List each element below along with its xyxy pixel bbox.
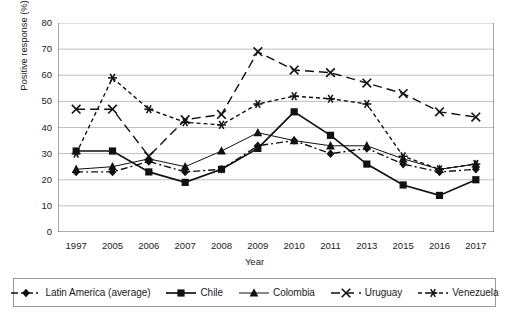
legend-label: Colombia bbox=[273, 287, 315, 298]
data-point-marker bbox=[290, 92, 299, 100]
y-tick-label: 60 bbox=[22, 71, 52, 81]
legend-label: Uruguay bbox=[365, 287, 402, 298]
y-axis-title: Positive response (%) bbox=[18, 0, 29, 111]
data-point-marker bbox=[109, 147, 116, 154]
series-line bbox=[76, 141, 476, 172]
legend-marker bbox=[250, 288, 259, 296]
x-tick-label: 2017 bbox=[453, 241, 499, 251]
cross-marker-icon bbox=[330, 286, 362, 300]
legend-label: Venezuela bbox=[452, 287, 498, 298]
data-point-marker bbox=[472, 176, 479, 183]
diamond-marker-icon bbox=[10, 286, 42, 300]
legend-item[interactable]: Venezuela bbox=[417, 286, 498, 300]
data-point-marker bbox=[254, 145, 261, 152]
data-point-marker bbox=[327, 149, 335, 158]
data-point-marker bbox=[145, 168, 152, 175]
data-point-marker bbox=[327, 132, 334, 139]
square-marker-icon bbox=[165, 286, 197, 300]
line-chart-figure: Positive response (%) 80706050403020100 … bbox=[0, 0, 509, 321]
legend-marker bbox=[178, 289, 185, 296]
legend-item[interactable]: Colombia bbox=[238, 286, 315, 300]
asterisk-marker-icon bbox=[417, 286, 449, 300]
data-point-marker bbox=[291, 108, 298, 115]
y-tick-label: 50 bbox=[22, 97, 52, 107]
x-axis-title: Year bbox=[0, 256, 509, 267]
legend-item[interactable]: Uruguay bbox=[330, 286, 402, 300]
y-tick-label: 20 bbox=[22, 175, 52, 185]
series-line bbox=[76, 78, 476, 169]
data-point-marker bbox=[218, 166, 225, 173]
series-line bbox=[76, 52, 476, 157]
data-point-marker bbox=[436, 192, 443, 199]
data-point-marker bbox=[217, 110, 226, 119]
data-point-marker bbox=[399, 89, 408, 98]
legend-marker bbox=[23, 288, 31, 297]
data-point-marker bbox=[400, 181, 407, 188]
y-tick-label: 30 bbox=[22, 149, 52, 159]
legend-label: Latin America (average) bbox=[45, 287, 150, 298]
y-tick-label: 10 bbox=[22, 201, 52, 211]
legend-marker bbox=[429, 289, 438, 297]
y-tick-label: 70 bbox=[22, 44, 52, 54]
plot-area bbox=[58, 23, 494, 232]
chart-canvas bbox=[58, 23, 494, 232]
data-point-marker bbox=[362, 141, 371, 149]
legend-label: Chile bbox=[200, 287, 223, 298]
triangle-marker-icon bbox=[238, 286, 270, 300]
data-point-marker bbox=[363, 79, 372, 88]
chart-legend: Latin America (average)ChileColombiaUrug… bbox=[13, 278, 496, 307]
data-point-marker bbox=[217, 146, 226, 154]
y-tick-label: 0 bbox=[22, 227, 52, 237]
legend-item[interactable]: Chile bbox=[165, 286, 223, 300]
legend-item[interactable]: Latin America (average) bbox=[10, 286, 150, 300]
y-tick-label: 40 bbox=[22, 123, 52, 133]
data-point-marker bbox=[182, 179, 189, 186]
data-point-marker bbox=[363, 160, 370, 167]
data-point-marker bbox=[253, 128, 262, 136]
y-tick-label: 80 bbox=[22, 18, 52, 28]
